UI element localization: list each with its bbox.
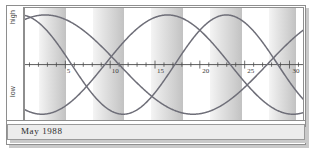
x-axis-tick-label: 15 — [157, 67, 164, 75]
x-axis-tick-label: 10 — [112, 67, 119, 75]
x-axis-tick-label: 30 — [292, 67, 299, 75]
plot-area — [24, 7, 304, 121]
plot-bottom-rule — [7, 120, 305, 121]
x-axis-tick-label: 25 — [247, 67, 254, 75]
biorhythm-curves — [25, 8, 303, 121]
y-axis-label-low: low — [9, 86, 23, 97]
x-axis-tick-label: 5 — [67, 67, 71, 75]
chart-caption-month: May 1988 — [21, 126, 63, 136]
biorhythm-chart-figure: high low May 1988 51015202530 — [0, 0, 318, 154]
x-axis-tick-label: 20 — [202, 67, 209, 75]
y-axis-label-high: high — [9, 10, 23, 24]
